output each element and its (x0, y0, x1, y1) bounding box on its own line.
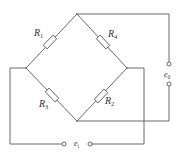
resistor-r1-body (43, 35, 56, 49)
output-terminal-bottom (167, 82, 171, 86)
input-wire-right (92, 68, 144, 144)
input-terminal-right (88, 142, 92, 146)
label-r3: R3 (38, 98, 48, 110)
label-r1: R1 (33, 27, 43, 39)
label-r2: R2 (104, 95, 114, 107)
output-wire-bottom (77, 86, 169, 121)
label-ei: ei (74, 139, 80, 149)
input-terminal-left (62, 142, 66, 146)
label-r4: R4 (107, 28, 118, 40)
input-wire-left (10, 68, 62, 144)
output-terminal-top (167, 62, 171, 66)
label-e0: e0 (164, 70, 171, 80)
circuit-svg: R1 R4 R3 R2 e0 ei (0, 0, 184, 159)
wheatstone-bridge-diagram: R1 R4 R3 R2 e0 ei (0, 0, 184, 159)
resistor-r3-body (45, 88, 58, 102)
output-wire-top (77, 14, 169, 62)
